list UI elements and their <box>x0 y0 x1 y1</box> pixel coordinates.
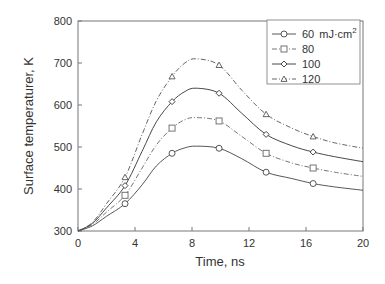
line-chart: 048121620300400500600700800 Time, ns Sur… <box>0 0 385 284</box>
circle-marker <box>122 201 128 207</box>
series-line <box>78 118 363 231</box>
diamond-marker <box>263 131 269 137</box>
legend: 60mJ·cm280100120 <box>267 20 360 85</box>
circle-marker <box>263 169 269 175</box>
x-tick-label: 0 <box>75 237 81 249</box>
legend-label: 120 <box>302 73 320 85</box>
legend-label: 100 <box>302 58 320 70</box>
series-line <box>78 88 363 231</box>
diamond-marker <box>122 183 128 189</box>
series-100 <box>78 88 363 231</box>
circle-marker <box>281 31 287 37</box>
y-tick-label: 300 <box>54 225 72 237</box>
square-marker <box>122 192 128 198</box>
x-axis-title: Time, ns <box>195 254 245 269</box>
legend-label: 80 <box>302 43 314 55</box>
series-line <box>78 146 363 231</box>
circle-marker <box>310 181 316 187</box>
square-marker <box>263 150 269 156</box>
y-tick-label: 400 <box>54 183 72 195</box>
x-tick-label: 8 <box>189 237 195 249</box>
triangle-marker <box>216 62 222 67</box>
y-axis-title: Surface temperaturer, K <box>21 57 36 195</box>
x-tick-label: 20 <box>357 237 369 249</box>
circle-marker <box>169 150 175 156</box>
y-tick-label: 800 <box>54 15 72 27</box>
series-80 <box>78 118 363 231</box>
x-tick-label: 16 <box>300 237 312 249</box>
diamond-marker <box>216 90 222 96</box>
x-tick-label: 4 <box>132 237 138 249</box>
y-tick-label: 700 <box>54 57 72 69</box>
y-tick-label: 600 <box>54 99 72 111</box>
square-marker <box>310 165 316 171</box>
y-tick-label: 500 <box>54 141 72 153</box>
square-marker <box>216 118 222 124</box>
square-marker <box>281 46 287 52</box>
circle-marker <box>216 145 222 151</box>
diamond-marker <box>310 149 316 155</box>
square-marker <box>169 125 175 131</box>
triangle-marker <box>122 174 128 179</box>
x-tick-label: 12 <box>243 237 255 249</box>
series-60 <box>78 145 363 231</box>
legend-label: 60mJ·cm2 <box>302 26 357 40</box>
